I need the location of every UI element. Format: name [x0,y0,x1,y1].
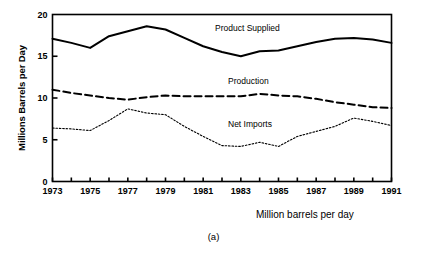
y-tick-label: 5 [26,135,48,145]
x-tick-label: 1979 [146,186,186,196]
x-tick-label: 1977 [108,186,148,196]
x-axis-title: Million barrels per day [256,209,354,221]
x-tick-label: 1987 [296,186,336,196]
x-tick-label: 1985 [259,186,299,196]
series-line-net-imports [53,109,392,147]
figure-caption: (a) [0,231,427,243]
x-tick-label: 1983 [221,186,261,196]
series-label-production: Production [228,76,269,86]
series-paths [53,26,392,146]
series-label-product-supplied: Product Supplied [215,23,280,33]
series-label-net-imports: Net Imports [228,119,272,129]
x-tick-label: 1991 [372,186,412,196]
y-tick-label: 10 [26,93,48,103]
line-chart-plot [0,0,427,257]
x-tick-label: 1975 [70,186,110,196]
x-tick-label: 1981 [183,186,223,196]
y-tick-label: 0 [26,177,48,187]
x-tick-label: 1973 [33,186,73,196]
x-tick-label: 1989 [334,186,374,196]
y-tick-label: 15 [26,51,48,61]
figure-container: Millions Barrels per Day 05101520 197319… [0,0,427,257]
series-line-production [53,90,392,108]
y-tick-label: 20 [26,10,48,20]
